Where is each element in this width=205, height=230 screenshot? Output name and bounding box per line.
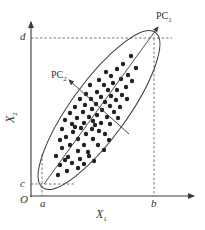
data-point	[109, 74, 113, 78]
data-point	[75, 116, 79, 120]
data-point	[54, 154, 58, 158]
data-point	[87, 115, 91, 119]
data-point	[125, 97, 129, 101]
pca-diagram	[0, 0, 205, 230]
data-point	[83, 103, 87, 107]
data-point	[116, 116, 120, 120]
data-point	[87, 154, 91, 158]
data-point	[63, 118, 67, 122]
origin-label: O	[20, 194, 28, 205]
data-point	[104, 70, 108, 74]
data-point	[90, 107, 94, 111]
data-point	[65, 169, 69, 173]
x-axis-label-sub: 1	[103, 215, 107, 223]
pc2-label-sub: 2	[63, 75, 67, 83]
data-point	[115, 67, 119, 71]
data-point	[78, 157, 82, 161]
data-point	[93, 123, 97, 127]
pc1-axis-arrow	[44, 27, 158, 184]
data-point	[78, 97, 82, 101]
tick-label-a: a	[40, 198, 46, 209]
data-point	[108, 122, 112, 126]
data-point	[84, 132, 88, 136]
data-point	[99, 95, 103, 99]
tick-label-d: d	[20, 31, 26, 42]
data-point	[63, 158, 67, 162]
data-point	[134, 66, 138, 70]
data-point	[71, 130, 75, 134]
y-axis-label: X2	[4, 112, 19, 123]
data-point	[120, 93, 124, 97]
data-point	[60, 127, 64, 131]
data-point	[90, 127, 94, 131]
data-point	[81, 110, 85, 114]
data-point	[99, 121, 103, 125]
data-point	[70, 161, 74, 165]
y-axis-label-main: X	[3, 116, 17, 123]
data-point	[118, 105, 122, 109]
data-point	[79, 126, 83, 130]
y-axis-label-sub: 2	[11, 112, 19, 116]
data-point	[126, 73, 130, 77]
axes	[30, 22, 194, 197]
pc1-label-sub: 1	[168, 16, 172, 24]
data-point	[107, 138, 111, 142]
data-point	[91, 119, 95, 123]
data-point	[76, 149, 80, 153]
data-point	[64, 135, 68, 139]
data-point	[73, 125, 77, 129]
x-axis-label: X1	[96, 208, 107, 223]
pc1-label-main: PC	[156, 10, 168, 21]
data-point	[76, 166, 80, 170]
data-point	[112, 110, 116, 114]
data-point	[97, 129, 101, 133]
data-point	[91, 137, 95, 141]
data-point	[124, 85, 128, 89]
data-point	[111, 81, 115, 85]
data-point	[102, 148, 106, 152]
tick-label-b: b	[151, 198, 157, 209]
data-point	[88, 83, 92, 87]
pc2-label: PC2	[51, 70, 67, 83]
data-point	[106, 88, 110, 92]
data-point	[82, 162, 86, 166]
data-point	[92, 159, 96, 163]
data-point	[82, 121, 86, 125]
data-point	[58, 138, 62, 142]
pc2-label-main: PC	[51, 69, 63, 80]
data-point	[103, 132, 107, 136]
data-point	[56, 173, 60, 177]
data-point	[82, 143, 86, 147]
data-point	[102, 83, 106, 87]
data-point	[115, 88, 119, 92]
data-point	[121, 62, 125, 66]
pc1-label: PC1	[156, 11, 172, 24]
data-point	[108, 104, 112, 108]
data-point	[97, 78, 101, 82]
data-point	[73, 105, 77, 109]
data-point	[96, 143, 100, 147]
data-point	[86, 150, 90, 154]
data-point	[130, 79, 134, 83]
data-point	[68, 111, 72, 115]
tick-label-c: c	[20, 178, 25, 189]
data-point	[60, 146, 64, 150]
data-point	[129, 54, 133, 58]
data-point	[114, 98, 118, 102]
data-point	[95, 90, 99, 94]
